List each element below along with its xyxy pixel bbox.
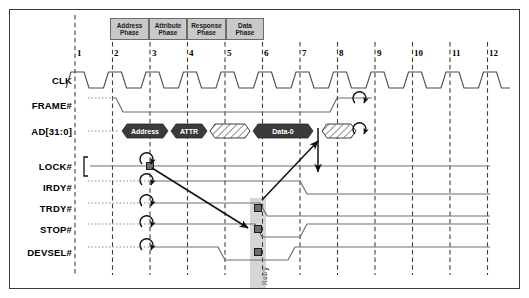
timing-diagram-root: Address Phase Attribute Phase Response P… (0, 0, 529, 298)
turnaround-icon (140, 239, 153, 250)
turnaround-icon (140, 174, 153, 185)
marker-devsel-retry (255, 249, 262, 256)
bus-segment-turnaround-2 (322, 124, 356, 138)
turnaround-icon (140, 216, 153, 227)
waveform-stop (88, 224, 490, 237)
bus-label-attr: ATTR (180, 128, 198, 135)
waveform-irdy (88, 181, 490, 194)
waveform-layer: Address ATTR Data-0 (0, 0, 529, 298)
marker-trdy-retry (255, 205, 262, 212)
cycle-gridlines (75, 15, 488, 275)
causal-arrow-lock-to-stop (152, 168, 248, 228)
waveform-trdy (88, 203, 490, 216)
bus-segment-turnaround (210, 124, 250, 138)
waveform-clk (66, 72, 510, 88)
lock-bracket (84, 157, 88, 176)
bus-label-data0: Data-0 (272, 128, 294, 135)
bus-label-address: Address (131, 128, 159, 135)
waveform-ad: Address ATTR Data-0 (88, 124, 356, 138)
turnaround-icon (140, 195, 153, 206)
causal-arrow-up-to-bus (262, 141, 318, 200)
waveform-devsel (88, 247, 490, 260)
marker-stop-retry (255, 226, 262, 233)
waveform-frame (88, 98, 372, 112)
